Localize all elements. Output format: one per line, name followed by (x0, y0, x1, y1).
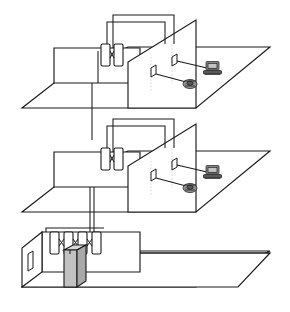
level-middle-floor (22, 119, 270, 212)
cabling-riser-diagram: Structured Cabling Riser Diagram Three-l… (0, 0, 290, 312)
termination-block-middle-2 (114, 148, 123, 170)
partition-wall-upper (128, 20, 196, 108)
wall-outlet-ground-1 (28, 251, 33, 271)
computer-icon (204, 62, 222, 75)
telephone-icon (183, 79, 197, 88)
telephone-icon (183, 183, 197, 192)
equipment-room-top-rail (46, 228, 104, 232)
computer-icon (204, 166, 222, 179)
termination-block-ground-1 (50, 232, 59, 254)
level-upper-floor (22, 15, 270, 108)
telecom-closet-wall-middle (54, 152, 140, 187)
termination-block-middle-1 (101, 148, 110, 170)
termination-block-ground-4 (92, 232, 101, 254)
equipment-cabinet (64, 245, 86, 287)
level-ground-floor (22, 228, 270, 287)
partition-wall-middle (128, 124, 196, 212)
termination-block-upper-2 (114, 44, 123, 66)
termination-block-upper-1 (101, 44, 110, 66)
telecom-closet-wall-upper (54, 48, 140, 83)
diagram-canvas (0, 0, 290, 312)
